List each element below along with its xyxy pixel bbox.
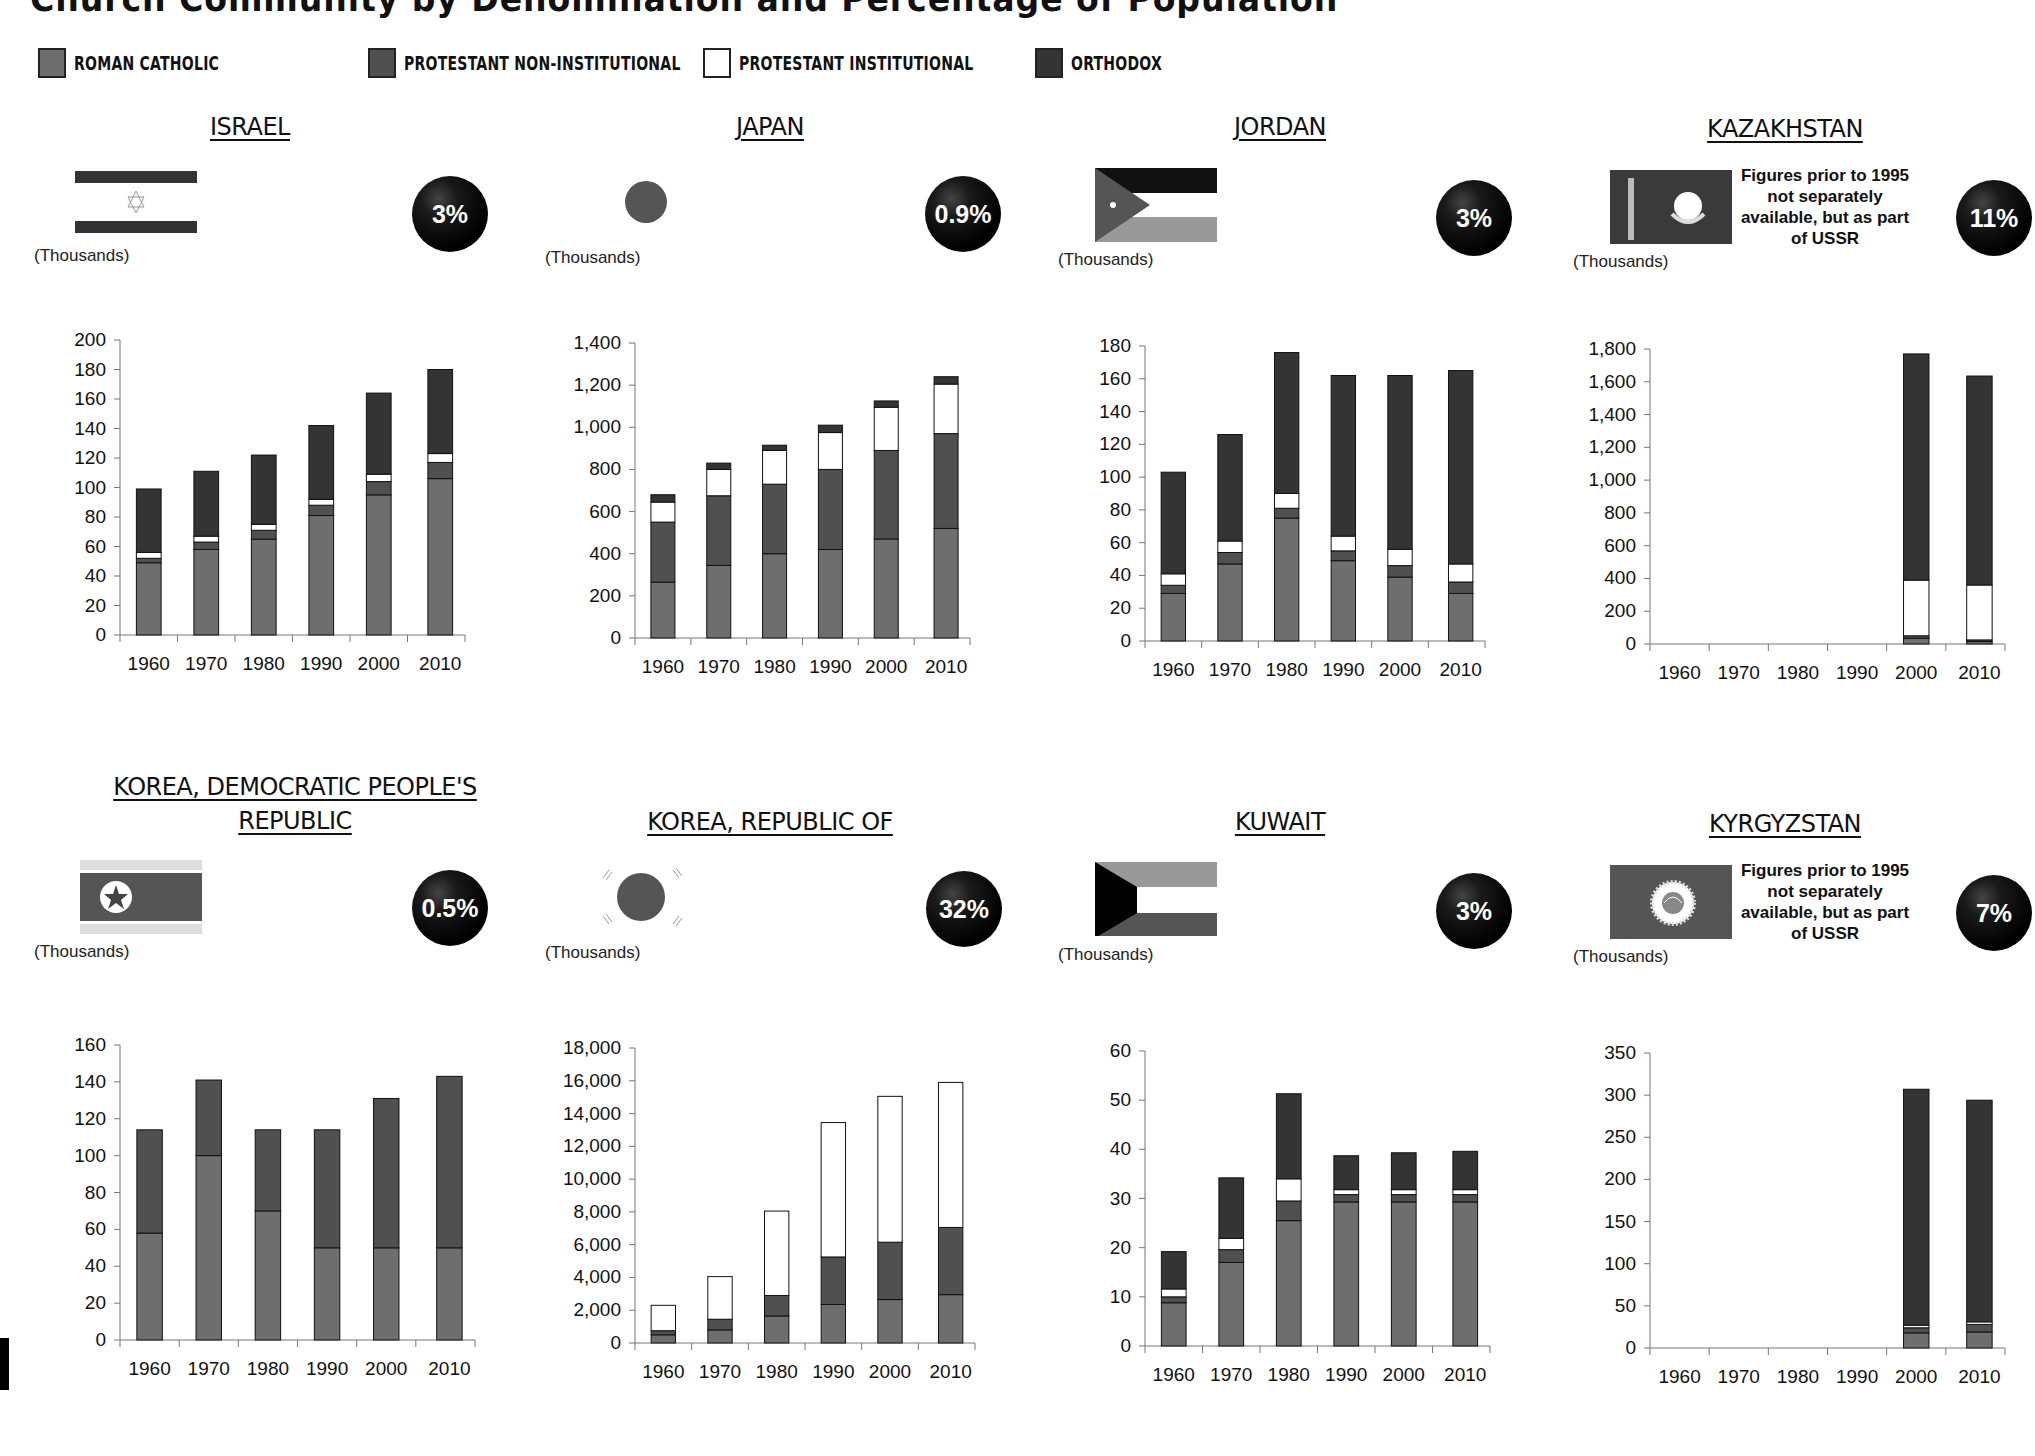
stacked-bar-chart-north-korea: 0204060801001201401601960197019801990200… [60, 1040, 480, 1389]
bar-segment-protestant-non-institutional [1967, 1324, 1992, 1332]
y-tick-label: 60 [85, 536, 106, 557]
x-tick-label: 2000 [869, 1361, 911, 1382]
bar-segment-roman-catholic [437, 1248, 462, 1340]
bar-segment-protestant-non-institutional [1391, 1195, 1416, 1202]
y-tick-label: 12,000 [563, 1135, 621, 1156]
bar-segment-orthodox [1219, 1178, 1244, 1238]
bar-segment-protestant-non-institutional [251, 530, 276, 539]
bar-segment-protestant-non-institutional [437, 1076, 462, 1247]
y-tick-label: 10,000 [563, 1168, 621, 1189]
bar-segment-protestant-institutional [1219, 1238, 1244, 1249]
legend-item-protestant-non-institutional: PROTESTANT NON-INSTITUTIONAL [368, 48, 741, 78]
y-tick-label: 180 [74, 359, 106, 380]
roman-catholic-swatch-icon [38, 48, 66, 78]
bar-segment-orthodox [428, 370, 453, 454]
bar-segment-protestant-non-institutional [707, 496, 731, 566]
bar-segment-orthodox [1453, 1151, 1478, 1189]
bar-segment-roman-catholic [1218, 564, 1242, 641]
bar-segment-orthodox [1161, 472, 1185, 574]
y-tick-label: 40 [85, 1255, 106, 1276]
page-title: Church Community by Denomination and Per… [30, 0, 1338, 19]
x-tick-label: 1960 [128, 1358, 170, 1379]
x-tick-label: 1990 [1836, 662, 1878, 683]
stacked-bar-chart-kazakhstan: 02004006008001,0001,2001,4001,6001,80019… [1590, 344, 2010, 693]
bar-segment-roman-catholic [763, 554, 787, 638]
y-tick-label: 40 [1110, 1138, 1131, 1159]
bar-segment-protestant-institutional [764, 1211, 788, 1295]
chart-svg: 02004006008001,0001,2001,4001,6001,80019… [1590, 344, 2010, 689]
bar-segment-roman-catholic [938, 1295, 962, 1343]
y-tick-label: 40 [1110, 564, 1131, 585]
chart-svg: 0501001502002503003501960197019801990200… [1590, 1048, 2010, 1393]
bar-segment-roman-catholic [1219, 1262, 1244, 1346]
bar-segment-roman-catholic [136, 563, 161, 635]
kyrgyzstan-flag-icon [1610, 865, 1732, 939]
y-tick-label: 160 [74, 388, 106, 409]
bar-segment-protestant-institutional [874, 407, 898, 450]
y-tick-label: 6,000 [573, 1234, 621, 1255]
x-tick-label: 1970 [1718, 662, 1760, 683]
x-tick-label: 2000 [1379, 659, 1421, 680]
x-tick-label: 1960 [642, 1361, 684, 1382]
x-tick-label: 2010 [930, 1361, 972, 1382]
bar-segment-roman-catholic [1904, 638, 1929, 644]
bar-segment-roman-catholic [1161, 1303, 1186, 1346]
country-title: JORDAN [1030, 110, 1530, 144]
bar-segment-protestant-non-institutional [1904, 1328, 1929, 1333]
percent-badge: 3% [1436, 873, 1512, 949]
bar-segment-protestant-institutional [938, 1082, 962, 1227]
y-tick-label: 350 [1604, 1042, 1636, 1063]
bar-segment-protestant-institutional [1453, 1190, 1478, 1195]
legend-label: PROTESTANT INSTITUTIONAL [739, 52, 973, 74]
y-tick-label: 0 [95, 624, 106, 645]
y-tick-label: 0 [95, 1329, 106, 1350]
y-tick-label: 20 [85, 1292, 106, 1313]
y-tick-label: 50 [1615, 1295, 1636, 1316]
x-tick-label: 2000 [365, 1358, 407, 1379]
bar-segment-protestant-non-institutional [821, 1257, 845, 1305]
bar-segment-orthodox [194, 471, 219, 536]
x-tick-label: 2010 [1958, 1366, 2000, 1387]
bar-segment-roman-catholic [651, 582, 675, 638]
y-tick-label: 100 [1099, 466, 1131, 487]
bar-segment-protestant-non-institutional [1388, 566, 1412, 577]
bar-segment-protestant-institutional [366, 474, 391, 481]
bar-segment-protestant-institutional [708, 1277, 732, 1320]
bar-segment-protestant-non-institutional [764, 1295, 788, 1315]
bar-segment-roman-catholic [1391, 1202, 1416, 1346]
bar-segment-orthodox [763, 445, 787, 450]
bar-segment-roman-catholic [251, 539, 276, 635]
bar-segment-roman-catholic [874, 539, 898, 638]
bar-segment-protestant-non-institutional [763, 484, 787, 554]
israel-flag-icon [75, 165, 197, 239]
x-tick-label: 1960 [1153, 1364, 1195, 1385]
bar-segment-protestant-non-institutional [1219, 1250, 1244, 1263]
bar-segment-protestant-non-institutional [878, 1242, 902, 1299]
x-tick-label: 2010 [925, 656, 967, 677]
legend-label: ROMAN CATHOLIC [74, 52, 219, 74]
y-tick-label: 20 [85, 595, 106, 616]
y-tick-label: 150 [1604, 1211, 1636, 1232]
y-tick-label: 20 [1110, 1237, 1131, 1258]
country-title: ISRAEL [0, 110, 500, 144]
bar-segment-orthodox [1904, 354, 1929, 580]
y-tick-label: 120 [1099, 433, 1131, 454]
y-tick-label: 10 [1110, 1286, 1131, 1307]
kazakhstan-flag-icon [1610, 170, 1732, 244]
chart-svg: 02,0004,0006,0008,00010,00012,00014,0001… [575, 1043, 980, 1388]
bar-segment-protestant-institutional [309, 499, 334, 505]
bar-segment-protestant-non-institutional [1334, 1195, 1359, 1202]
chart-svg: 0102030405060196019701980199020002010 [1085, 1046, 1495, 1391]
x-tick-label: 2000 [1895, 1366, 1937, 1387]
bar-segment-protestant-non-institutional [1218, 553, 1242, 564]
x-tick-label: 1980 [756, 1361, 798, 1382]
bar-segment-roman-catholic [1276, 1221, 1301, 1346]
x-tick-label: 1960 [128, 653, 170, 674]
y-tick-label: 200 [1604, 1168, 1636, 1189]
bar-segment-protestant-non-institutional [366, 482, 391, 495]
y-tick-label: 0 [1625, 1337, 1636, 1358]
x-tick-label: 2010 [1958, 662, 2000, 683]
bar-segment-roman-catholic [1967, 1332, 1992, 1348]
x-tick-label: 2000 [1383, 1364, 1425, 1385]
unit-label: (Thousands) [1058, 945, 1153, 965]
